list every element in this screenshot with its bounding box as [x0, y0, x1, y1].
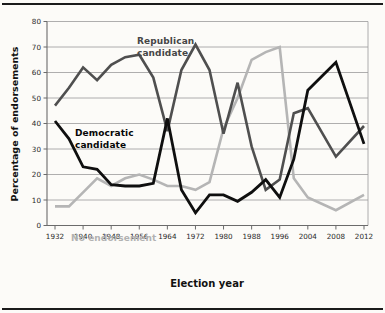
x-tick-label-1972: 1972: [186, 232, 204, 241]
republican-candidate-line: [55, 45, 364, 190]
bottom-rule: [2, 308, 383, 310]
figure-canvas: 0102030405060708019321940194819561964197…: [0, 0, 385, 313]
y-tick-label-80: 80: [32, 17, 42, 26]
republican-series-label: Republican candidate: [137, 36, 194, 59]
x-tick-label-2004: 2004: [299, 232, 318, 241]
y-tick-label-50: 50: [32, 94, 42, 103]
x-tick-label-2012: 2012: [355, 232, 373, 241]
x-axis-title: Election year: [170, 278, 244, 289]
x-tick-label-1988: 1988: [242, 232, 261, 241]
y-tick-label-40: 40: [32, 119, 42, 128]
y-tick-label-70: 70: [32, 43, 42, 52]
y-tick-label-10: 10: [32, 196, 42, 205]
y-tick-label-0: 0: [36, 221, 41, 230]
y-tick-label-60: 60: [32, 68, 42, 77]
y-tick-label-30: 30: [32, 145, 42, 154]
x-tick-label-1964: 1964: [158, 232, 177, 241]
democratic-series-label: Democratic candidate: [75, 128, 134, 151]
x-tick-label-1932: 1932: [46, 232, 64, 241]
y-tick-label-20: 20: [32, 170, 42, 179]
x-tick-label-1980: 1980: [214, 232, 233, 241]
y-axis-title: Percentage of endorsements: [9, 46, 20, 201]
no-endorsement-series-label: No endorsement: [71, 233, 156, 245]
x-tick-label-2008: 2008: [327, 232, 346, 241]
x-tick-label-1996: 1996: [271, 232, 290, 241]
